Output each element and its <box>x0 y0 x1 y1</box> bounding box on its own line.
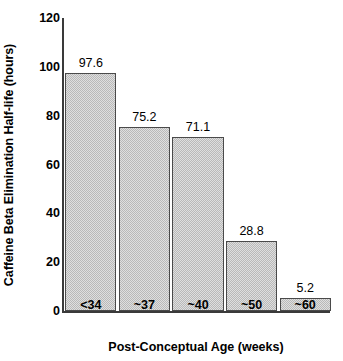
y-tick-label: 120 <box>26 12 60 25</box>
x-tick-label: ~40 <box>172 299 223 312</box>
y-axis-title-text: Caffeine Beta Elimination Half-life (hou… <box>2 44 16 286</box>
y-axis-line <box>62 18 64 311</box>
y-axis-title: Caffeine Beta Elimination Half-life (hou… <box>0 0 18 330</box>
y-tick-label: 0 <box>26 305 60 318</box>
bar-value-label: 71.1 <box>172 121 223 134</box>
y-tick-label: 100 <box>26 61 60 74</box>
y-tick-label: 80 <box>26 109 60 122</box>
bar-value-label: 28.8 <box>226 225 277 238</box>
bar-value-label: 97.6 <box>65 57 116 70</box>
bar <box>119 127 170 311</box>
bar-value-label: 5.2 <box>280 282 331 295</box>
x-tick-label: ~60 <box>280 299 331 312</box>
y-tick-label: 20 <box>26 256 60 269</box>
bar-value-label: 75.2 <box>119 111 170 124</box>
x-tick-label: ~37 <box>119 299 170 312</box>
x-tick-label: ~50 <box>226 299 277 312</box>
x-axis-title: Post-Conceptual Age (weeks) <box>62 340 330 354</box>
bar-chart-figure: Caffeine Beta Elimination Half-life (hou… <box>0 0 343 361</box>
y-tick-label: 40 <box>26 207 60 220</box>
bar <box>172 137 223 311</box>
x-tick-label: <34 <box>65 299 116 312</box>
bar <box>65 73 116 311</box>
y-tick-label: 60 <box>26 158 60 171</box>
y-axis-tick-labels: 020406080100120 <box>22 0 60 361</box>
